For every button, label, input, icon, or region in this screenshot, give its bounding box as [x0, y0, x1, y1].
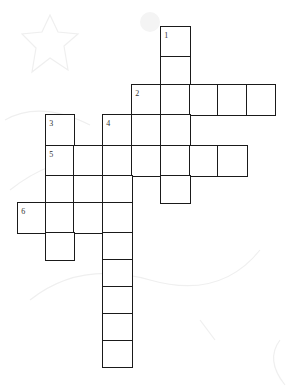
cell-letter-input[interactable]: [103, 233, 131, 259]
crossword-cell[interactable]: [102, 340, 132, 367]
crossword-cell[interactable]: [160, 56, 190, 85]
crossword-cell[interactable]: [73, 202, 103, 233]
cell-letter-input[interactable]: [46, 115, 73, 145]
cell-letter-input[interactable]: [132, 115, 160, 145]
crossword-cell[interactable]: [73, 145, 103, 176]
cell-letter-input[interactable]: [18, 203, 45, 232]
crossword-cell[interactable]: [217, 145, 247, 176]
crossword-cell[interactable]: [45, 232, 74, 260]
crossword-cell[interactable]: 4: [102, 114, 132, 146]
cell-letter-input[interactable]: [103, 260, 131, 286]
crossword-cell[interactable]: [45, 202, 74, 233]
crossword-cell[interactable]: [73, 175, 103, 203]
cell-letter-input[interactable]: [190, 146, 217, 175]
cell-letter-input[interactable]: [103, 287, 131, 313]
cell-letter-input[interactable]: [103, 314, 131, 340]
crossword-cell[interactable]: [160, 114, 190, 146]
crossword-cell[interactable]: [102, 175, 132, 203]
cell-letter-input[interactable]: [103, 146, 131, 175]
crossword-cell[interactable]: 2: [131, 84, 161, 115]
crossword-cell[interactable]: [160, 175, 190, 203]
crossword-cell[interactable]: [160, 145, 190, 176]
crossword-cell[interactable]: [246, 84, 275, 115]
cell-letter-input[interactable]: [46, 146, 73, 175]
cell-letter-input[interactable]: [74, 203, 102, 232]
cell-letter-input[interactable]: [190, 85, 217, 114]
cell-letter-input[interactable]: [46, 203, 73, 232]
cell-letter-input[interactable]: [161, 146, 189, 175]
cell-letter-input[interactable]: [161, 176, 189, 202]
cell-letter-input[interactable]: [46, 233, 73, 259]
cell-letter-input[interactable]: [218, 146, 246, 175]
crossword-cell[interactable]: [131, 145, 161, 176]
crossword-cell[interactable]: 6: [17, 202, 46, 233]
crossword-cell[interactable]: [45, 175, 74, 203]
cell-letter-input[interactable]: [161, 27, 189, 56]
crossword-cell[interactable]: [131, 114, 161, 146]
crossword-cell[interactable]: 1: [160, 26, 190, 57]
crossword-cell[interactable]: [102, 232, 132, 260]
cell-letter-input[interactable]: [74, 176, 102, 202]
crossword-grid: 123456: [0, 0, 291, 391]
cell-letter-input[interactable]: [74, 146, 102, 175]
cell-letter-input[interactable]: [132, 85, 160, 114]
cell-letter-input[interactable]: [161, 115, 189, 145]
crossword-cell[interactable]: [102, 286, 132, 314]
cell-letter-input[interactable]: [161, 57, 189, 84]
cell-letter-input[interactable]: [103, 203, 131, 232]
cell-letter-input[interactable]: [218, 85, 246, 114]
cell-letter-input[interactable]: [103, 341, 131, 366]
crossword-cell[interactable]: [102, 259, 132, 287]
crossword-cell[interactable]: [102, 145, 132, 176]
crossword-cell[interactable]: [102, 202, 132, 233]
crossword-cell[interactable]: [102, 313, 132, 341]
crossword-cell[interactable]: 5: [45, 145, 74, 176]
cell-letter-input[interactable]: [103, 115, 131, 145]
cell-letter-input[interactable]: [103, 176, 131, 202]
crossword-cell[interactable]: [189, 145, 218, 176]
crossword-cell[interactable]: [189, 84, 218, 115]
crossword-cell[interactable]: 3: [45, 114, 74, 146]
cell-letter-input[interactable]: [247, 85, 274, 114]
crossword-cell[interactable]: [160, 84, 190, 115]
cell-letter-input[interactable]: [132, 146, 160, 175]
cell-letter-input[interactable]: [161, 85, 189, 114]
crossword-cell[interactable]: [217, 84, 247, 115]
cell-letter-input[interactable]: [46, 176, 73, 202]
